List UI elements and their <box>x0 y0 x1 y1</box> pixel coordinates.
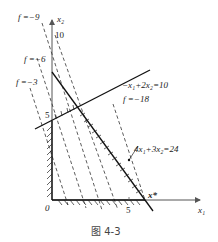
constraint-line-2 <box>52 72 153 211</box>
origin-label: 0 <box>45 203 50 213</box>
optimum-label: x* <box>147 190 158 200</box>
constraint-label-1: −x₁+2x₂=10 <box>122 80 168 90</box>
contour-label-f-minus-9: f =−9 <box>18 12 40 22</box>
x2-tick-label-10: 10 <box>55 30 65 40</box>
constraint-label-2: 4x₁+3x₂=24 <box>134 144 179 154</box>
contour-label-f-minus-6: f =−6 <box>24 54 46 64</box>
x1-axis-label: x₁ <box>197 205 205 215</box>
x1-tick-label-5: 5 <box>126 205 131 215</box>
contour-label-f-minus-18: f =−18 <box>123 94 149 104</box>
contour-f-minus-3 <box>30 88 68 205</box>
constraint-lines <box>35 70 153 211</box>
x2-axis-label: x₂ <box>56 14 64 24</box>
contour-extra-1 <box>55 35 118 210</box>
contour-f-minus-9 <box>42 23 102 210</box>
hatching <box>47 105 141 205</box>
contour-label-f-minus-3: f =−3 <box>16 77 38 87</box>
figure-caption: 图 4-3 <box>91 226 121 237</box>
lp-graphical-solution-diagram: x₂ x₁ 0 5 5 10 f =−9 f =−6 f =−3 f =−18 … <box>0 0 218 242</box>
leader-dot <box>128 159 130 161</box>
x2-tick-label-5: 5 <box>45 110 50 120</box>
